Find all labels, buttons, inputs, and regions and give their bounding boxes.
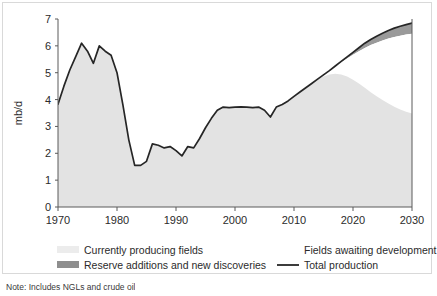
x-tick-label: 1980 xyxy=(105,214,129,226)
x-tick-label: 2010 xyxy=(282,214,306,226)
legend-swatch xyxy=(57,261,79,268)
figure-note: Note: Includes NGLs and crude oil xyxy=(6,280,135,294)
chart-legend: Currently producing fieldsFields awaitin… xyxy=(57,244,437,271)
legend-item: Reserve additions and new discoveries xyxy=(57,259,266,271)
legend-label: Fields awaiting development xyxy=(304,244,437,256)
y-tick-label: 3 xyxy=(45,120,51,132)
legend-item: Fields awaiting development xyxy=(277,244,437,256)
y-tick-label: 5 xyxy=(45,67,51,79)
x-tick-label: 2030 xyxy=(400,214,424,226)
legend-swatch xyxy=(57,246,79,253)
y-tick-label: 4 xyxy=(45,94,51,106)
legend-label: Reserve additions and new discoveries xyxy=(84,259,266,271)
x-tick-label: 2020 xyxy=(341,214,365,226)
y-tick-label: 1 xyxy=(45,174,51,186)
x-tick-label: 1970 xyxy=(46,214,70,226)
area-chart: 012345671970198019902000201020202030mb/d… xyxy=(0,0,437,296)
y-tick-label: 0 xyxy=(45,201,51,213)
legend-swatch xyxy=(277,246,299,253)
legend-item: Currently producing fields xyxy=(57,244,203,256)
y-tick-label: 2 xyxy=(45,147,51,159)
chart-plot-wrapper: 012345671970198019902000201020202030mb/d… xyxy=(0,0,437,296)
y-axis-title: mb/d xyxy=(12,101,24,125)
series-areas xyxy=(58,23,412,207)
figure-container: 012345671970198019902000201020202030mb/d… xyxy=(0,0,437,296)
y-tick-label: 7 xyxy=(45,13,51,25)
y-tick-label: 6 xyxy=(45,40,51,52)
legend-label: Currently producing fields xyxy=(84,244,203,256)
x-tick-label: 2000 xyxy=(223,214,247,226)
legend-label: Total production xyxy=(304,259,378,271)
legend-item: Total production xyxy=(277,259,378,271)
x-tick-label: 1990 xyxy=(164,214,188,226)
